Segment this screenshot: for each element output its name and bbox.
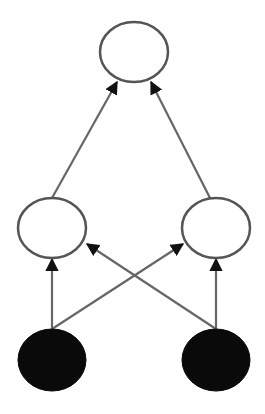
edge-hidden-right-to-output — [151, 82, 210, 198]
node-input-left — [18, 329, 86, 391]
node-hidden-right — [182, 198, 250, 258]
edge-input-right-to-hidden-left — [87, 244, 216, 329]
edges-layer — [52, 82, 216, 329]
node-output — [100, 22, 168, 82]
edge-input-left-to-hidden-right — [52, 244, 183, 329]
node-input-right — [182, 329, 250, 391]
edge-hidden-left-to-output — [52, 82, 117, 198]
network-diagram — [0, 0, 265, 414]
node-hidden-left — [18, 198, 86, 258]
nodes-layer — [18, 22, 250, 391]
